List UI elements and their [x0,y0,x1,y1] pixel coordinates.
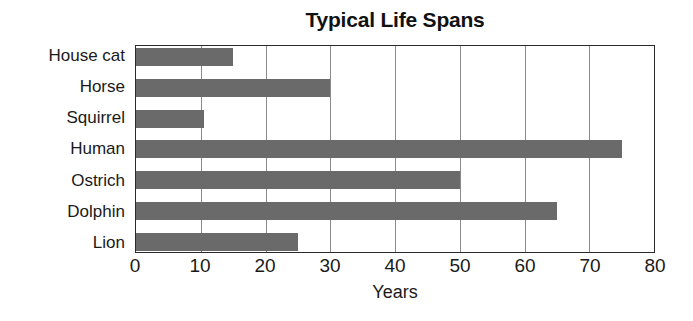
x-tick-label-70: 70 [579,253,600,279]
x-tick-label-80: 80 [644,253,665,279]
bar-human[interactable] [136,140,622,158]
bar-horse[interactable] [136,79,330,97]
category-axis-labels: House catHorseSquirrelHumanOstrichDolphi… [0,45,130,253]
bar-row [136,233,654,251]
bar-ostrich[interactable] [136,171,460,189]
x-tick-label-60: 60 [514,253,535,279]
bar-chart: Typical Life Spans House catHorseSquirre… [0,0,693,321]
bar-row [136,140,654,158]
bar-row [136,79,654,97]
bar-lion[interactable] [136,233,298,251]
category-label-dolphin: Dolphin [0,203,130,221]
category-label-house-cat: House cat [0,47,130,65]
bar-dolphin[interactable] [136,202,557,220]
bars-layer [136,46,654,252]
category-label-lion: Lion [0,234,130,252]
chart-title: Typical Life Spans [135,8,655,32]
bar-row [136,171,654,189]
plot-area [135,45,655,253]
x-tick-label-20: 20 [254,253,275,279]
category-label-horse: Horse [0,78,130,96]
x-tick-label-50: 50 [449,253,470,279]
x-axis-label: Years [135,282,655,303]
category-label-ostrich: Ostrich [0,172,130,190]
x-tick-label-10: 10 [189,253,210,279]
x-tick-label-0: 0 [130,253,141,279]
x-tick-label-40: 40 [384,253,405,279]
bar-row [136,48,654,66]
bar-squirrel[interactable] [136,110,204,128]
category-label-squirrel: Squirrel [0,109,130,127]
x-axis-ticks: 01020304050607080 [135,253,655,279]
bar-row [136,110,654,128]
bar-house-cat[interactable] [136,48,233,66]
x-tick-label-30: 30 [319,253,340,279]
category-label-human: Human [0,140,130,158]
bar-row [136,202,654,220]
